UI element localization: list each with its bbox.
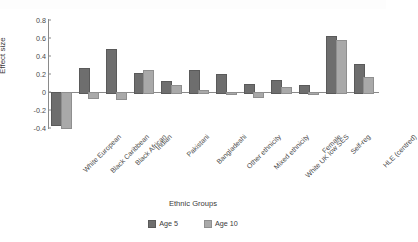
plot-area [49, 20, 379, 128]
legend-item: Age 5 [148, 219, 178, 228]
bar-group [214, 20, 242, 128]
legend-label: Age 10 [215, 219, 238, 228]
bar-group [297, 20, 325, 128]
y-tick-mark [48, 128, 51, 129]
y-tick-mark [48, 92, 51, 93]
y-tick-label: 0.6 [36, 34, 46, 43]
bar-group [324, 20, 352, 128]
x-tick-label: Bangladeshi [216, 133, 248, 165]
x-tick-label: Pakistani [185, 133, 210, 158]
y-tick-mark [48, 74, 51, 75]
y-tick-mark [48, 56, 51, 57]
bar-group [352, 20, 380, 128]
x-axis-title: Ethnic Groups [0, 199, 386, 208]
y-tick-mark [48, 38, 51, 39]
bar-age-5 [216, 74, 227, 94]
bar-age-10 [253, 92, 264, 98]
bar-age-10 [171, 85, 182, 94]
bar-age-10 [336, 40, 347, 94]
y-tick-label: 0.8 [36, 16, 46, 25]
legend-label: Age 5 [159, 219, 178, 228]
y-tick-label: 0.4 [36, 52, 46, 61]
bar-age-5 [106, 49, 117, 94]
figure-bottom-margin [0, 233, 386, 242]
bar-age-10 [116, 92, 127, 100]
x-tick-label: HLE (centred) [382, 133, 418, 169]
legend-swatch-icon [204, 220, 212, 228]
x-tick-label: Indian [155, 133, 173, 151]
y-tick-label: -0.4 [34, 124, 46, 133]
bar-group [104, 20, 132, 128]
bar-age-10 [143, 70, 154, 94]
bar-age-10 [61, 92, 72, 129]
y-tick-mark [48, 110, 51, 111]
bar-age-10 [363, 77, 374, 94]
bar-age-10 [198, 90, 209, 94]
y-tick-mark [48, 20, 51, 21]
bar-age-10 [226, 92, 237, 95]
bar-age-10 [88, 92, 99, 99]
x-tick-label: White UK low SES [304, 133, 350, 179]
bar-group [49, 20, 77, 128]
bar-group [77, 20, 105, 128]
bar-age-5 [79, 68, 90, 94]
x-tick-label: Self-reg [349, 133, 371, 155]
chart-legend: Age 5Age 10 [0, 219, 386, 228]
bar-group [132, 20, 160, 128]
bar-age-10 [281, 87, 292, 94]
y-tick-label: -0.2 [34, 106, 46, 115]
bar-group [187, 20, 215, 128]
bar-group [242, 20, 270, 128]
bar-group [159, 20, 187, 128]
legend-item: Age 10 [204, 219, 238, 228]
bar-age-10 [308, 92, 319, 95]
bar-group [269, 20, 297, 128]
y-tick-label: 0 [42, 88, 46, 97]
y-tick-label: 0.2 [36, 70, 46, 79]
figure-top-margin [0, 0, 386, 9]
legend-swatch-icon [148, 220, 156, 228]
